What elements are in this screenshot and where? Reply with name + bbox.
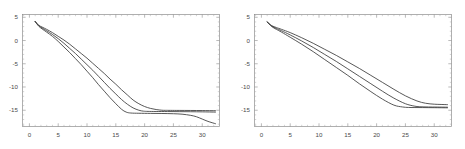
x-tick-label: 10 [316, 131, 323, 138]
data-curve-curve-lower [267, 22, 447, 108]
plot-svg-right: 051015202530 50-5-10-15 [232, 0, 464, 149]
x-tick-label: 5 [56, 131, 60, 138]
x-tick-label: 25 [170, 131, 177, 138]
y-tick-label: 0 [15, 37, 19, 44]
y-tick-label: -5 [12, 60, 18, 67]
plot-svg-left: 051015202530 50-5-10-15 [0, 0, 232, 149]
x-tick-label: 15 [112, 131, 119, 138]
x-tick-label: 30 [199, 131, 206, 138]
y-axis-tick-labels-left: 50-5-10-15 [9, 13, 19, 113]
data-curve-curve-middle [35, 21, 215, 112]
y-tick-label: 0 [247, 37, 251, 44]
plot-frame-right [255, 15, 452, 127]
y-axis-tick-labels-right: 50-5-10-15 [241, 13, 251, 113]
figure-root: 051015202530 50-5-10-15 051015202530 50-… [0, 0, 465, 149]
y-tick-label: -10 [241, 83, 251, 90]
plot-frame-left [23, 15, 220, 127]
y-tick-label: -10 [9, 83, 19, 90]
x-axis-tick-labels-right: 051015202530 [260, 131, 439, 138]
x-tick-label: 25 [402, 131, 409, 138]
y-tick-label: -5 [244, 60, 250, 67]
plot-panel-right: 051015202530 50-5-10-15 [232, 0, 464, 149]
x-tick-label: 20 [141, 131, 148, 138]
data-curve-curve-upper [35, 21, 215, 110]
data-curves-right [267, 22, 447, 108]
y-axis-ticks-left [23, 17, 220, 124]
data-curve-curve-lower [35, 21, 215, 123]
x-tick-label: 20 [373, 131, 380, 138]
x-axis-ticks-right [256, 15, 452, 127]
x-tick-label: 0 [28, 131, 32, 138]
x-tick-label: 15 [344, 131, 351, 138]
y-tick-label: 5 [15, 13, 19, 20]
data-curves-left [35, 21, 215, 123]
x-tick-label: 30 [431, 131, 438, 138]
x-tick-label: 0 [260, 131, 264, 138]
y-tick-label: 5 [247, 13, 251, 20]
plot-panel-left: 051015202530 50-5-10-15 [0, 0, 232, 149]
y-tick-label: -15 [241, 106, 251, 113]
x-tick-label: 5 [288, 131, 292, 138]
y-tick-label: -15 [9, 106, 19, 113]
x-axis-tick-labels-left: 051015202530 [28, 131, 207, 138]
x-tick-label: 10 [84, 131, 91, 138]
data-curve-curve-upper [267, 22, 447, 105]
